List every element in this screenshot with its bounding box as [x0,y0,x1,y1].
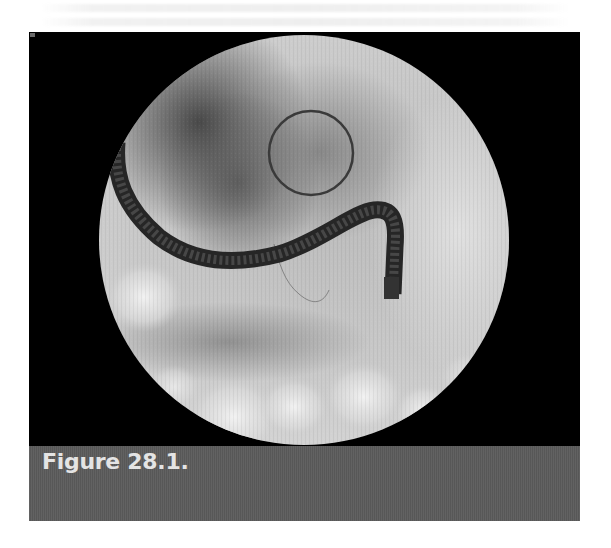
bleed-through-text-line-1 [40,4,570,12]
bleed-through-text-line-2 [40,18,570,26]
figure-caption-box: Figure 28.1. [29,446,580,521]
fluoroscopy-image-panel [29,32,580,446]
endoscope-tip [384,277,399,299]
fluoroscopy-image [29,32,580,446]
figure-caption: Figure 28.1. [42,449,188,474]
corner-marker [30,33,35,37]
field-of-view [29,32,580,446]
